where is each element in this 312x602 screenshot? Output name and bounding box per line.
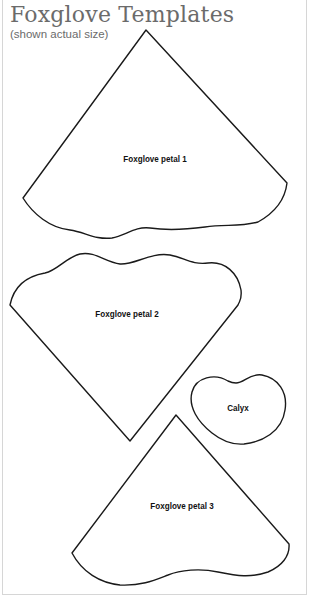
petal-2-outline (10, 253, 241, 441)
petal-3-label: Foxglove petal 3 (150, 500, 213, 511)
calyx-label: Calyx (227, 402, 249, 413)
petal-1-label: Foxglove petal 1 (123, 153, 186, 164)
petal-2-label: Foxglove petal 2 (95, 308, 158, 319)
petal-1-outline (23, 30, 287, 238)
template-shapes (0, 0, 312, 602)
